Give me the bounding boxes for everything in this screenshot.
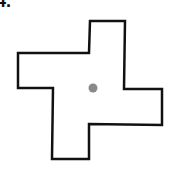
- pinwheel-figure: [0, 0, 178, 176]
- center-point-dot: [89, 84, 98, 93]
